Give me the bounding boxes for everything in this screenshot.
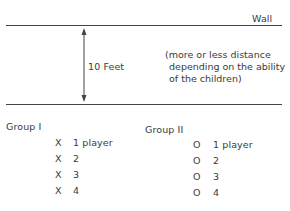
- distance-note-line2: depending on the ability: [169, 62, 285, 73]
- distance-note-line1: (more or less distance: [165, 50, 271, 61]
- player-label: 1 player: [73, 137, 113, 148]
- player-label: 2: [213, 155, 219, 166]
- player-label: 2: [73, 153, 79, 164]
- player-x-marker: X: [55, 185, 62, 196]
- player-label: 3: [73, 169, 79, 180]
- distance-note-line3: of the children): [169, 74, 242, 85]
- player-o-marker: O: [193, 155, 201, 166]
- double-arrow-icon: [0, 0, 290, 211]
- player-label: 3: [213, 171, 219, 182]
- player-x-marker: X: [55, 153, 62, 164]
- player-x-marker: X: [55, 169, 62, 180]
- player-o-marker: O: [193, 187, 201, 198]
- player-o-marker: O: [193, 139, 201, 150]
- player-o-marker: O: [193, 171, 201, 182]
- player-label: 4: [213, 187, 219, 198]
- player-label: 4: [73, 185, 79, 196]
- group-1-title: Group I: [6, 121, 41, 132]
- group-2-title: Group II: [145, 124, 183, 135]
- distance-label: 10 Feet: [88, 61, 124, 72]
- player-x-marker: X: [55, 137, 62, 148]
- player-label: 1 player: [213, 139, 253, 150]
